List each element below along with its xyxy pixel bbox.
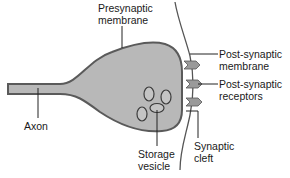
label-line: Post-synaptic [219, 78, 282, 90]
presynaptic-terminal [8, 43, 182, 132]
label-storage-vesicle: Storage vesicle [138, 148, 175, 172]
receptor-icon [186, 98, 202, 106]
label-line: receptors [219, 90, 282, 102]
label-axon: Axon [24, 120, 48, 132]
label-line: membrane [98, 14, 153, 26]
label-line: Synaptic [194, 140, 234, 152]
label-line: cleft [194, 152, 234, 164]
label-line: Post-synaptic [219, 48, 282, 60]
label-postsynaptic-membrane: Post-synaptic membrane [219, 48, 282, 72]
label-postsynaptic-receptors: Post-synaptic receptors [219, 78, 282, 102]
label-line: vesicle [138, 160, 175, 172]
vesicle [137, 107, 147, 121]
label-presynaptic-membrane: Presynaptic membrane [98, 2, 153, 26]
label-line: Storage [138, 148, 175, 160]
vesicle [144, 87, 154, 101]
label-line: Presynaptic [98, 2, 153, 14]
vesicle [161, 90, 171, 104]
label-line: membrane [219, 60, 282, 72]
receptor-icon [184, 61, 200, 69]
label-synaptic-cleft: Synaptic cleft [194, 140, 234, 164]
